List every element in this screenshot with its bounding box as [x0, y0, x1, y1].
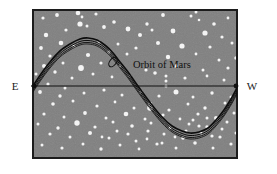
star [212, 22, 216, 26]
star [187, 103, 190, 106]
orbit-of-mars-figure: E W Orbit of Mars [0, 0, 277, 174]
star [153, 71, 157, 75]
star [206, 117, 209, 120]
star [111, 76, 114, 79]
star [119, 144, 122, 147]
star [114, 101, 117, 104]
star [146, 138, 149, 141]
star [82, 143, 85, 146]
star [117, 43, 120, 46]
star [126, 53, 129, 56]
star [44, 33, 48, 37]
star [102, 88, 105, 91]
star [208, 45, 211, 48]
star [101, 136, 104, 139]
star [60, 146, 63, 149]
star [226, 66, 229, 69]
star [218, 59, 221, 62]
star [192, 96, 195, 99]
star [203, 106, 206, 109]
star [198, 19, 201, 22]
star [95, 104, 98, 107]
star [190, 15, 193, 18]
star [233, 112, 236, 115]
star [161, 142, 164, 145]
star [196, 112, 199, 115]
star [46, 82, 49, 85]
star [112, 20, 116, 24]
star [212, 147, 215, 150]
star [218, 135, 221, 138]
star [210, 134, 213, 137]
star [151, 29, 154, 32]
star [183, 76, 186, 79]
star [179, 43, 184, 48]
direction-label-west: W [247, 80, 258, 92]
star [63, 116, 66, 119]
star [157, 94, 160, 97]
star [74, 120, 79, 125]
star [39, 46, 43, 50]
star [223, 79, 226, 82]
star [78, 65, 84, 71]
star [55, 13, 59, 17]
star [51, 102, 55, 106]
star [112, 121, 115, 124]
star [94, 12, 97, 15]
direction-label-east: E [12, 80, 19, 92]
star [221, 128, 224, 131]
star [126, 132, 129, 135]
star [37, 123, 40, 126]
star [116, 130, 119, 133]
star [86, 25, 89, 28]
star [126, 27, 131, 32]
star [202, 69, 205, 72]
star [171, 29, 176, 34]
star [108, 137, 111, 140]
star [165, 75, 168, 78]
star [146, 129, 149, 132]
horizon-endpoint-west-dot [234, 84, 239, 89]
star [195, 53, 198, 56]
star [179, 118, 182, 121]
star [38, 90, 42, 94]
star [71, 77, 74, 80]
star [175, 147, 178, 150]
star [88, 131, 92, 135]
star [167, 108, 170, 111]
star [42, 112, 45, 115]
star [76, 11, 81, 16]
star [150, 122, 153, 125]
star [83, 111, 87, 115]
star [202, 30, 207, 35]
star [231, 42, 234, 45]
star [53, 70, 56, 73]
star [144, 118, 147, 121]
star [138, 148, 141, 151]
star [86, 53, 90, 57]
star [134, 46, 137, 49]
star [69, 136, 72, 139]
star [133, 107, 136, 110]
star [99, 147, 102, 150]
star [220, 35, 223, 38]
star [229, 142, 232, 145]
star [227, 17, 230, 20]
star [135, 140, 138, 143]
star [130, 124, 134, 128]
star [224, 102, 227, 105]
star [155, 142, 158, 145]
star [77, 21, 82, 26]
star [193, 141, 197, 145]
star [83, 92, 86, 95]
star [93, 125, 96, 128]
star [163, 133, 166, 136]
star [161, 13, 165, 17]
star [59, 41, 64, 46]
star [56, 126, 59, 129]
star [62, 62, 65, 65]
star [174, 136, 177, 139]
star [35, 73, 38, 76]
diagram-canvas: E W Orbit of Mars [0, 0, 277, 174]
star [92, 73, 95, 76]
